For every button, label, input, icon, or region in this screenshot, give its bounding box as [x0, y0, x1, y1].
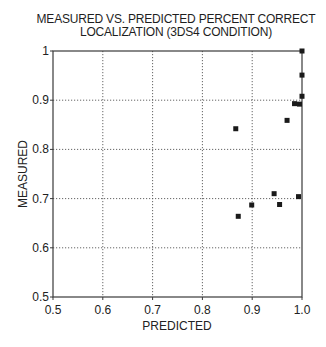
x-tick-label: 0.9	[244, 303, 261, 317]
data-points	[233, 49, 304, 219]
x-tick-label: 0.6	[94, 303, 111, 317]
y-axis-ticks: 0.50.60.70.80.91	[32, 44, 53, 304]
data-point-marker	[300, 49, 305, 54]
plot-frame	[53, 51, 302, 297]
y-tick-label: 0.8	[32, 142, 49, 156]
x-tick-label: 1.0	[294, 303, 311, 317]
x-tick-label: 0.8	[194, 303, 211, 317]
data-point-marker	[249, 202, 254, 207]
x-axis-label: PREDICTED	[142, 319, 212, 333]
data-point-marker	[285, 118, 290, 123]
data-point-marker	[236, 214, 241, 219]
y-axis-label: MEASURED	[16, 140, 30, 208]
scatter-plot: 0.50.60.70.80.91.0 0.50.60.70.80.91 PRED…	[0, 0, 326, 347]
y-tick-label: 0.7	[32, 192, 49, 206]
x-axis-ticks: 0.50.60.70.80.91.0	[45, 297, 311, 317]
x-tick-label: 0.7	[144, 303, 161, 317]
data-point-marker	[300, 94, 305, 99]
y-tick-label: 0.9	[32, 93, 49, 107]
data-point-marker	[272, 191, 277, 196]
data-point-marker	[296, 194, 301, 199]
grid-lines	[53, 51, 302, 297]
data-point-marker	[300, 73, 305, 78]
y-tick-label: 1	[42, 44, 49, 58]
y-tick-label: 0.6	[32, 241, 49, 255]
data-point-marker	[277, 202, 282, 207]
x-tick-label: 0.5	[45, 303, 62, 317]
data-point-marker	[233, 126, 238, 131]
data-point-marker	[292, 101, 297, 106]
y-tick-label: 0.5	[32, 290, 49, 304]
data-point-marker	[297, 102, 302, 107]
